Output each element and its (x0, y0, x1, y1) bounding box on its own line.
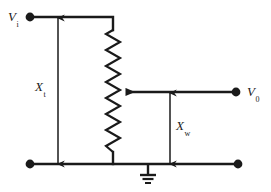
circuit-schematic-canvas (0, 0, 271, 192)
input-terminal-dot (26, 13, 35, 22)
input-voltage-label: Vi (8, 10, 18, 23)
output-voltage-symbol: V (247, 84, 255, 99)
circuit-diagram-figure: Vi V0 Xt Xw (0, 0, 271, 192)
wire-input-top (30, 17, 113, 30)
ground-icon (140, 164, 156, 183)
bottom-right-terminal-dot (234, 160, 243, 169)
total-reactance-label: Xt (35, 80, 45, 93)
total-reactance-symbol: X (35, 79, 43, 94)
total-reactance-subscript: t (43, 90, 45, 99)
output-voltage-label: V0 (247, 85, 259, 98)
input-voltage-symbol: V (8, 9, 16, 24)
wiper-reactance-label: Xw (176, 119, 190, 132)
wiper-reactance-symbol: X (176, 118, 184, 133)
wiper-reactance-subscript: w (184, 129, 190, 138)
output-terminal-dot (232, 88, 241, 97)
variable-resistor-zigzag (106, 30, 120, 152)
bottom-left-terminal-dot (26, 160, 35, 169)
output-voltage-subscript: 0 (255, 95, 259, 104)
input-voltage-subscript: i (16, 20, 18, 29)
